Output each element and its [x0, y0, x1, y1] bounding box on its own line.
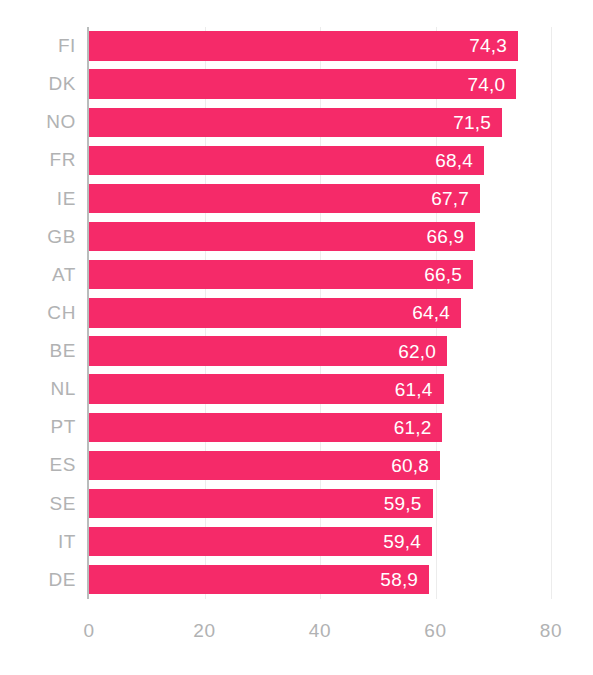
category-label: NO — [2, 103, 76, 141]
category-label: PT — [2, 408, 76, 446]
bar-row: 64,4 — [89, 294, 551, 332]
category-label: IE — [2, 180, 76, 218]
category-label: SE — [2, 485, 76, 523]
bar: 67,7 — [89, 184, 480, 213]
bar-track: 67,7 — [89, 184, 551, 213]
category-label: CH — [2, 294, 76, 332]
x-axis-tick-label: 80 — [540, 621, 562, 640]
category-label: GB — [2, 218, 76, 256]
x-axis-tick-label: 60 — [424, 621, 446, 640]
category-label: DK — [2, 65, 76, 103]
plot-area: 74,374,071,568,467,766,966,564,462,061,4… — [89, 27, 551, 599]
x-axis-tick-label: 40 — [309, 621, 331, 640]
bar: 61,4 — [89, 374, 444, 403]
bar: 61,2 — [89, 413, 442, 442]
bar: 60,8 — [89, 451, 440, 480]
bar-row: 59,5 — [89, 485, 551, 523]
bar-row: 60,8 — [89, 446, 551, 484]
bar-track: 74,3 — [89, 31, 551, 60]
category-label: NL — [2, 370, 76, 408]
x-axis-tick-label: 20 — [193, 621, 215, 640]
bar-row: 58,9 — [89, 561, 551, 599]
bar-track: 68,4 — [89, 146, 551, 175]
bar-row: 66,9 — [89, 218, 551, 256]
category-label: BE — [2, 332, 76, 370]
bar-row: 71,5 — [89, 103, 551, 141]
bar: 59,4 — [89, 527, 432, 556]
category-label: IT — [2, 523, 76, 561]
bar-track: 71,5 — [89, 108, 551, 137]
bar-track: 60,8 — [89, 451, 551, 480]
bar-track: 62,0 — [89, 336, 551, 365]
gridline — [551, 27, 552, 599]
bar-track: 59,5 — [89, 489, 551, 518]
bar-value-label: 60,8 — [391, 456, 440, 475]
bar-value-label: 71,5 — [453, 113, 502, 132]
bar-value-label: 59,4 — [383, 532, 432, 551]
bar-track: 58,9 — [89, 565, 551, 594]
bar-value-label: 66,5 — [424, 265, 473, 284]
bar-value-label: 61,4 — [395, 380, 444, 399]
bar-row: 61,4 — [89, 370, 551, 408]
bar-row: 66,5 — [89, 256, 551, 294]
bar-value-label: 74,0 — [468, 75, 517, 94]
bar-value-label: 58,9 — [380, 570, 429, 589]
bar: 74,3 — [89, 31, 518, 60]
category-label: FR — [2, 141, 76, 179]
bar-row: 61,2 — [89, 408, 551, 446]
bar-value-label: 68,4 — [435, 151, 484, 170]
bar: 66,9 — [89, 222, 475, 251]
category-axis: FIDKNOFRIEGBATCHBENLPTESSEITDE — [0, 27, 76, 599]
bar-row: 59,4 — [89, 523, 551, 561]
bar-row: 68,4 — [89, 141, 551, 179]
bar-row: 74,3 — [89, 27, 551, 65]
bar-track: 61,2 — [89, 413, 551, 442]
bar: 64,4 — [89, 298, 461, 327]
category-label: ES — [2, 446, 76, 484]
bar: 74,0 — [89, 69, 516, 98]
bar-value-label: 62,0 — [398, 342, 447, 361]
category-label: FI — [2, 27, 76, 65]
bar-row: 74,0 — [89, 65, 551, 103]
bar-value-label: 66,9 — [427, 227, 476, 246]
bar: 68,4 — [89, 146, 484, 175]
bar-value-label: 59,5 — [384, 494, 433, 513]
bar-track: 74,0 — [89, 69, 551, 98]
bar-value-label: 74,3 — [469, 36, 518, 55]
bar-value-label: 64,4 — [412, 303, 461, 322]
bar: 62,0 — [89, 336, 447, 365]
bar-row: 62,0 — [89, 332, 551, 370]
x-axis-tick-label: 0 — [83, 621, 94, 640]
bar-track: 61,4 — [89, 374, 551, 403]
bar: 71,5 — [89, 108, 502, 137]
bar-track: 59,4 — [89, 527, 551, 556]
bar: 58,9 — [89, 565, 429, 594]
value-axis: 020406080 — [89, 599, 551, 659]
category-label: AT — [2, 256, 76, 294]
bar: 59,5 — [89, 489, 433, 518]
bar-value-label: 61,2 — [394, 418, 443, 437]
bar-row: 67,7 — [89, 180, 551, 218]
bar-track: 66,9 — [89, 222, 551, 251]
bar-track: 66,5 — [89, 260, 551, 289]
bar: 66,5 — [89, 260, 473, 289]
bar-value-label: 67,7 — [431, 189, 480, 208]
bar-chart: FIDKNOFRIEGBATCHBENLPTESSEITDE 74,374,07… — [0, 0, 593, 675]
category-label: DE — [2, 561, 76, 599]
bar-track: 64,4 — [89, 298, 551, 327]
